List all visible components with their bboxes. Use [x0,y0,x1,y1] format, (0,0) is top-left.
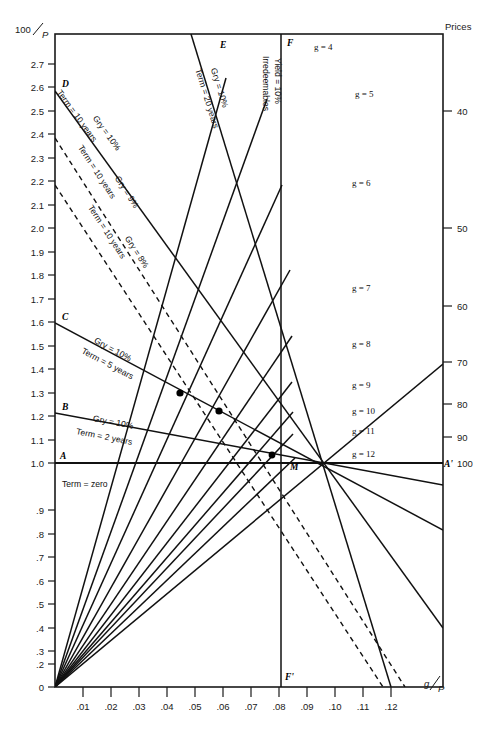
annot-B: Gry = 10% Term = 2 years [75,411,136,447]
x-tick-0.02: .02 [104,701,117,712]
point-label-A-prime: A' [443,459,453,469]
series-line-g8 [55,336,292,687]
series-label-g6: g = 6 [352,178,371,188]
series-line-g10 [55,412,293,687]
y-tick-1.1: 1.1 [31,435,44,446]
annot-A-term: Term = zero [62,479,108,489]
y-tick-1.9: 1.9 [31,247,44,258]
y-tick-1.6: 1.6 [31,317,44,328]
annot-B-term: Term = 2 years [75,426,133,447]
annot-D-term: Term = 10 years [55,88,99,144]
x-tick-0.10: .10 [328,701,341,712]
annot-F-irredeemables: Irredeemables [261,56,271,111]
y-tick-2.6: 2.6 [31,82,44,93]
y-tick-2.2: 2.2 [31,176,44,187]
chart-canvas: 100 P g P Prices [0,0,502,741]
y-axis-title-den: P [42,29,49,40]
y-tick-2.0: 2.0 [31,223,44,234]
y-tick-2.3: 2.3 [31,153,44,164]
annot-gry8-term: Term = 10 years [86,203,128,260]
x-axis-tick-labels: .01 .02 .03 .04 .05 .06 .07 .08 .09 .10 … [76,701,397,712]
annot-gry9-term: Term = 10 years [76,143,118,200]
point-label-C: C [62,312,69,322]
annot-irredeemables: Irredeemables [261,56,271,111]
point-label-F-prime: F' [284,672,294,682]
y-tick-0: 0 [39,682,44,693]
right-axis-title: Prices [445,21,472,32]
x-tick-0.06: .06 [216,701,229,712]
y-tick-1.8: 1.8 [31,270,44,281]
annot-F: Yield = 10% [273,58,283,104]
right-price-axis-ticks [443,111,452,437]
marker-dot-3 [269,452,276,459]
y-tick-2.4: 2.4 [31,129,44,140]
y-tick-0.3: .3 [36,646,44,657]
y-tick-1.4: 1.4 [31,364,44,375]
y-tick-1.3: 1.3 [31,388,44,399]
x-tick-0.07: .07 [244,701,257,712]
point-label-M: M [289,462,299,472]
x-tick-0.01: .01 [76,701,89,712]
price-tick-40: 40 [457,106,468,117]
series-label-g9: g = 9 [352,380,371,390]
x-axis-title: g P [424,676,445,694]
y-tick-2.1: 2.1 [31,200,44,211]
annot-gry9: Gry = 9% Term = 10 years [76,135,141,217]
x-axis-title-den: P [438,683,445,694]
annot-F-yield: Yield = 10% [273,58,283,104]
marker-dot-2 [215,407,222,414]
price-tick-100: 100 [457,458,473,469]
annot-E: Gry = 10% Term = 20 years [193,63,235,129]
price-tick-80: 80 [457,399,468,410]
point-label-A: A [59,451,66,461]
point-label-B: B [61,402,68,412]
y-axis-ticks [48,64,55,687]
x-axis-ticks [83,687,391,697]
y-tick-0.4: .4 [36,623,44,634]
y-axis-title-num: 100 [15,24,31,35]
price-tick-90: 90 [457,432,468,443]
y-axis-title: 100 P [15,23,49,40]
y-tick-0.2: .2 [36,659,44,670]
y-tick-0.5: .5 [36,599,44,610]
series-label-g8: g = 8 [352,339,371,349]
price-tick-70: 70 [457,357,468,368]
series-label-g11: g = 11 [352,426,375,436]
annot-B-gry: Gry = 10% [92,413,134,431]
y-tick-1.0: 1.0 [31,458,44,469]
x-tick-0.11: .11 [357,701,370,712]
marker-dot-1 [176,389,183,396]
series-label-g4: g = 4 [314,42,333,52]
price-tick-50: 50 [457,223,468,234]
bond-price-yield-chart: 100 P g P Prices [0,0,502,741]
series-label-g10: g = 10 [352,406,376,416]
y-tick-0.9: .9 [36,505,44,516]
series-label-g12: g = 12 [352,449,375,459]
series-line-D [55,91,443,628]
x-tick-0.08: .08 [272,701,285,712]
y-tick-2.5: 2.5 [31,106,44,117]
right-price-axis-labels: 40 50 60 70 80 90 100 [457,106,473,469]
series-line-E [191,34,391,687]
point-label-F: F [286,38,294,48]
annot-C: Gry = 10% Term = 5 years [80,332,142,381]
y-tick-1.7: 1.7 [31,294,44,305]
y-tick-1.2: 1.2 [31,411,44,422]
series-line-g9 [55,382,292,687]
point-label-E: E [219,40,226,50]
series-label-g5: g = 5 [355,89,374,99]
y-tick-0.7: .7 [36,552,44,563]
price-tick-60: 60 [457,301,468,312]
series-line-g12 [55,458,295,687]
x-tick-0.04: .04 [160,701,173,712]
y-tick-0.8: .8 [36,529,44,540]
x-tick-0.12: .12 [384,701,397,712]
x-tick-0.09: .09 [300,701,313,712]
y-tick-2.7: 2.7 [31,59,44,70]
x-tick-0.05: .05 [188,701,201,712]
y-axis-tick-labels: 2.7 2.6 2.5 2.4 2.3 2.2 2.1 2.0 1.9 1.8 … [31,59,44,693]
y-tick-1.5: 1.5 [31,341,44,352]
x-tick-0.03: .03 [132,701,145,712]
series-label-g7: g = 7 [352,283,371,293]
y-tick-0.6: .6 [36,576,44,587]
